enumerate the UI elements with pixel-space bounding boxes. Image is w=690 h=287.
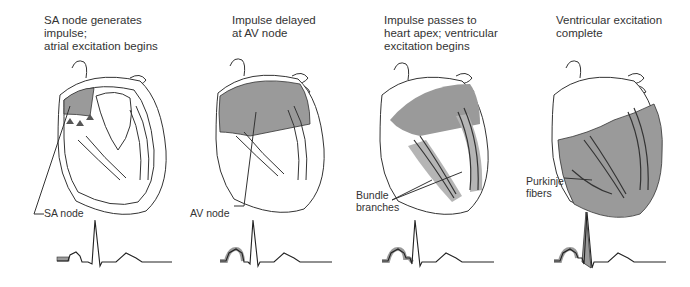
ecg-trace <box>172 0 344 287</box>
panel-purkinje-fibers: Ventricular excitation complete Purkinje… <box>516 0 688 287</box>
ecg-trace <box>0 0 172 287</box>
panel-bundle-branches: Impulse passes to heart apex; ventricula… <box>344 0 516 287</box>
ecg-trace <box>516 0 688 287</box>
panel-av-node: Impulse delayed at AV node AV node <box>172 0 344 287</box>
ecg-trace <box>344 0 516 287</box>
panel-sa-node: SA node generates impulse; atrial excita… <box>0 0 172 287</box>
